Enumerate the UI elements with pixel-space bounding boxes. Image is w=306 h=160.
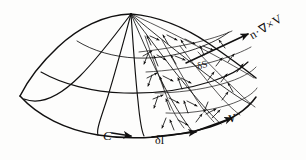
dome-outline <box>20 14 256 138</box>
vector-field-arrow <box>196 118 232 131</box>
normal-curl-arrow <box>186 34 248 63</box>
label-curve-C: C <box>103 129 112 142</box>
meridian-lines <box>24 14 254 136</box>
figure-canvas: C δl δS V n·∇×V <box>0 0 306 160</box>
label-line-element: δl <box>155 134 164 146</box>
curve-C-direction-arrow <box>112 133 131 136</box>
